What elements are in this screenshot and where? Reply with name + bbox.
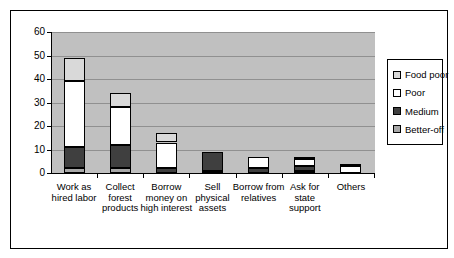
legend-swatch-icon: [393, 89, 401, 97]
x-category-label: Sell physical assets: [186, 182, 238, 214]
y-axis-tick-label: 30: [27, 98, 45, 108]
gridline: [52, 126, 375, 127]
bar-segment-food-poor: [294, 157, 315, 159]
y-axis-tick-mark: [47, 173, 51, 174]
gridline: [52, 56, 375, 57]
x-category-label: Collect forest products: [94, 182, 146, 214]
x-axis-tick-mark: [282, 174, 283, 178]
bar-segment-poor: [294, 159, 315, 166]
y-axis-tick-mark: [47, 126, 51, 127]
figure-border: 0102030405060Work as hired laborCollect …: [10, 10, 448, 249]
x-axis-tick-mark: [236, 174, 237, 178]
bar-segment-poor: [110, 107, 131, 145]
bar-segment-better-off: [294, 171, 315, 173]
bar-segment-poor: [248, 157, 269, 169]
bar-segment-food-poor: [64, 58, 85, 82]
y-axis-tick-mark: [47, 32, 51, 33]
bar-segment-poor: [340, 166, 361, 173]
x-axis-tick-mark: [97, 174, 98, 178]
gridline: [52, 79, 375, 80]
gridline: [52, 32, 375, 33]
x-axis-tick-mark: [374, 174, 375, 178]
legend-swatch-icon: [393, 107, 401, 115]
bar-segment-medium: [110, 145, 131, 169]
y-axis-tick-mark: [47, 150, 51, 151]
bar-segment-poor: [156, 143, 177, 169]
bar-segment-food-poor: [156, 133, 177, 142]
y-axis-tick-mark: [47, 103, 51, 104]
bar-segment-medium: [156, 168, 177, 173]
y-axis-tick-label: 10: [27, 145, 45, 155]
y-axis-tick-mark: [47, 79, 51, 80]
x-category-label: Ask for state support: [279, 182, 331, 214]
legend-entry: Better-off: [393, 124, 442, 135]
legend-entry: Poor: [393, 87, 442, 98]
y-axis-tick-mark: [47, 56, 51, 57]
bar-segment-poor: [64, 81, 85, 147]
gridline: [52, 103, 375, 104]
legend-swatch-icon: [393, 71, 401, 79]
legend-label: Food poor: [405, 69, 448, 80]
x-axis-tick-mark: [328, 174, 329, 178]
bar-segment-better-off: [110, 168, 131, 173]
x-axis-tick-mark: [189, 174, 190, 178]
legend-entry: Food poor: [393, 69, 442, 80]
x-axis-tick-mark: [143, 174, 144, 178]
legend-label: Better-off: [405, 124, 444, 135]
y-axis-tick-label: 60: [27, 27, 45, 37]
y-axis-tick-label: 20: [27, 121, 45, 131]
x-category-label: Others: [325, 182, 377, 193]
bar-segment-medium: [64, 147, 85, 168]
bar-segment-food-poor: [340, 164, 361, 166]
x-category-label: Borrow from relatives: [233, 182, 285, 203]
y-axis-tick-label: 0: [27, 168, 45, 178]
legend-entry: Medium: [393, 106, 442, 117]
bar-segment-medium: [294, 166, 315, 171]
legend: Food poorPoorMediumBetter-off: [387, 59, 443, 145]
bar-segment-medium: [248, 168, 269, 173]
legend-label: Poor: [405, 87, 425, 98]
x-category-label: Borrow money on high interest: [140, 182, 192, 214]
legend-label: Medium: [405, 106, 439, 117]
x-category-label: Work as hired labor: [48, 182, 100, 203]
legend-swatch-icon: [393, 125, 401, 133]
bar-segment-better-off: [64, 168, 85, 173]
bar-segment-better-off: [202, 171, 223, 173]
bar-segment-food-poor: [110, 93, 131, 107]
y-axis-tick-label: 40: [27, 74, 45, 84]
bar-segment-medium: [202, 152, 223, 171]
chart-figure: 0102030405060Work as hired laborCollect …: [0, 0, 454, 258]
gridline: [52, 150, 375, 151]
y-axis-tick-label: 50: [27, 51, 45, 61]
